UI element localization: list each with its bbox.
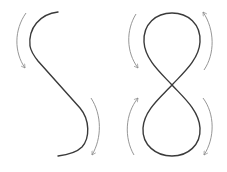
s-curve-group xyxy=(17,12,100,156)
arrow-left-top-down-icon xyxy=(17,13,26,68)
figure-eight-curve xyxy=(143,13,200,156)
arrow-left-bottom-up-icon xyxy=(127,98,138,155)
diagram-canvas xyxy=(0,0,227,172)
arrow-right-bottom-down-icon xyxy=(203,98,212,155)
figure-eight-group xyxy=(127,12,212,156)
arrow-left-top-down-icon xyxy=(129,14,138,68)
s-curve xyxy=(30,12,88,156)
arrow-right-bottom-down-icon xyxy=(91,98,99,155)
arrow-right-top-up-icon xyxy=(203,12,212,70)
